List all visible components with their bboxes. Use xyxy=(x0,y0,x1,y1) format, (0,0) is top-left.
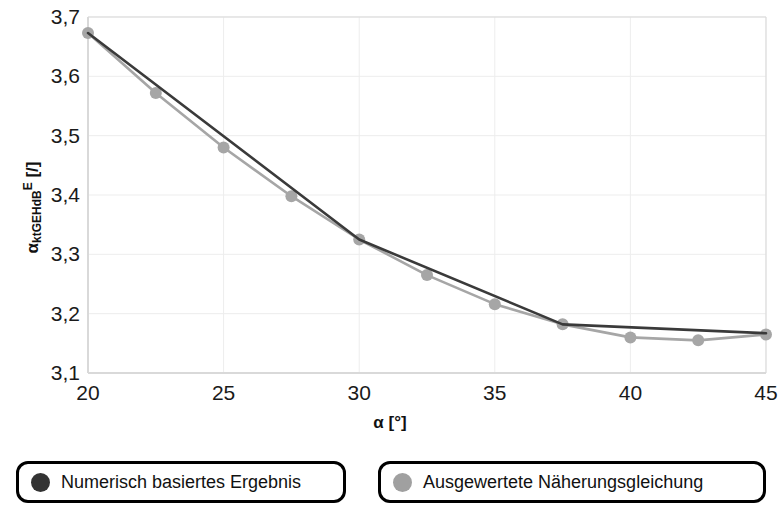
x-axis-tick-label: 40 xyxy=(600,382,660,403)
x-axis-tick-label: 20 xyxy=(58,382,118,403)
legend-marker-icon xyxy=(393,473,412,492)
legend-label-approximation: Ausgewertete Näherungsgleichung xyxy=(423,472,703,493)
y-axis-title-unit: [/] xyxy=(23,162,42,183)
x-axis-title: α [°] xyxy=(0,413,780,433)
chart-svg xyxy=(0,0,780,440)
y-axis-title: αktGEHdBE [/] xyxy=(21,88,44,328)
legend-item-numerical[interactable]: Numerisch basiertes Ergebnis xyxy=(16,461,346,503)
y-axis-tick-label: 3,1 xyxy=(24,362,80,383)
y-axis-tick-label: 3,7 xyxy=(24,6,80,27)
chart-figure: 3,13,23,33,43,53,63,7 202530354045 αktGE… xyxy=(0,0,780,516)
series-layer xyxy=(82,27,772,346)
legend-marker-icon xyxy=(31,473,50,492)
gridlines xyxy=(88,17,766,373)
x-axis-tick-label: 45 xyxy=(736,382,780,403)
y-axis-title-subscript: ktGEHdB xyxy=(30,190,44,243)
plot-area: 3,13,23,33,43,53,63,7 202530354045 αktGE… xyxy=(0,0,780,440)
y-axis-tick-label: 3,6 xyxy=(24,65,80,86)
x-axis-tick-label: 25 xyxy=(194,382,254,403)
legend-item-approximation[interactable]: Ausgewertete Näherungsgleichung xyxy=(378,461,766,503)
x-axis-tick-label: 30 xyxy=(329,382,389,403)
x-axis-tick-label: 35 xyxy=(465,382,525,403)
legend-label-numerical: Numerisch basiertes Ergebnis xyxy=(61,472,301,493)
chart-legend: Numerisch basiertes Ergebnis Ausgewertet… xyxy=(0,455,780,513)
y-axis-title-superscript: E xyxy=(21,182,35,190)
y-axis-title-base: α xyxy=(23,243,42,253)
